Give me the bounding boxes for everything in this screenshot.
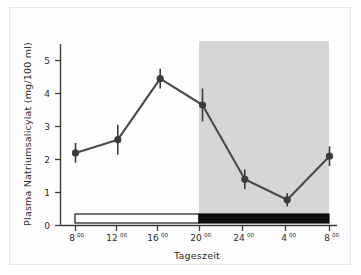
y-axis-title: Plasma Natriumsalicylat (mg/100 ml) (22, 42, 33, 226)
x-tick-sup-3: 00 (204, 232, 212, 238)
y-axis-ticks (55, 61, 61, 226)
x-tick-label-2: 16 (147, 233, 159, 243)
y-tick-label-5: 5 (44, 56, 50, 66)
x-tick-sup-1: 00 (120, 232, 128, 238)
figure-frame: 0 1 2 3 4 5 8 00 (0, 0, 361, 275)
x-axis-ticks (76, 226, 330, 232)
x-tick-label-group-2: 16 00 (147, 232, 168, 243)
x-axis-tick-labels: 8 00 12 00 16 00 20 00 24 00 (69, 232, 339, 243)
x-tick-sup-2: 00 (161, 232, 169, 238)
y-tick-label-0: 0 (44, 221, 50, 231)
x-tick-label-0: 8 (69, 233, 75, 243)
y-axis-tick-labels: 0 1 2 3 4 5 (44, 56, 50, 231)
x-tick-label-group-5: 4 00 (281, 232, 296, 243)
x-tick-label-group-1: 12 00 (106, 232, 127, 243)
x-tick-sup-6: 00 (332, 232, 340, 238)
x-tick-label-group-6: 8 00 (324, 232, 339, 243)
x-tick-label-6: 8 (324, 233, 330, 243)
data-point-marker (241, 176, 248, 183)
x-tick-label-1: 12 (106, 233, 117, 243)
x-axis-title: Tageszeit (173, 250, 220, 261)
data-point-marker (284, 196, 291, 203)
line-chart: 0 1 2 3 4 5 8 00 (0, 0, 361, 275)
y-tick-label-2: 2 (44, 155, 50, 165)
data-point-marker (326, 153, 333, 160)
x-tick-sup-0: 00 (77, 232, 85, 238)
x-tick-label-group-0: 8 00 (69, 232, 84, 243)
night-phase-bar (199, 214, 329, 223)
y-tick-label-3: 3 (44, 122, 50, 132)
x-tick-sup-4: 00 (247, 232, 255, 238)
y-tick-label-1: 1 (44, 188, 50, 198)
x-tick-label-5: 4 (281, 233, 287, 243)
night-shaded-region (199, 41, 329, 218)
y-tick-label-4: 4 (44, 89, 50, 99)
chart-plot-area: 0 1 2 3 4 5 8 00 (0, 0, 361, 275)
x-tick-sup-5: 00 (289, 232, 297, 238)
data-point-marker (72, 149, 79, 156)
x-tick-label-group-3: 20 00 (190, 232, 211, 243)
x-tick-label-group-4: 24 00 (233, 232, 254, 243)
day-phase-bar (75, 214, 199, 223)
x-tick-label-4: 24 (233, 233, 245, 243)
data-point-marker (199, 101, 206, 108)
data-point-marker (114, 136, 121, 143)
x-tick-label-3: 20 (190, 233, 202, 243)
data-point-marker (157, 75, 164, 82)
